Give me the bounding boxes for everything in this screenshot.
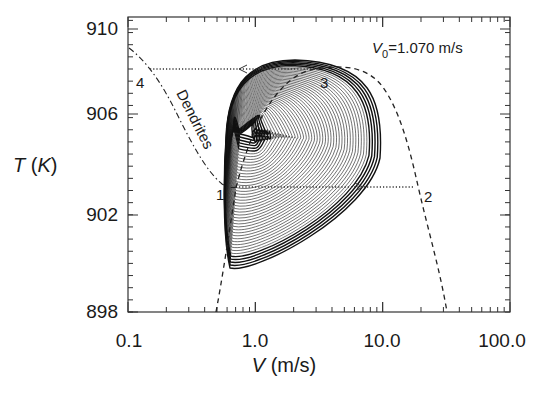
phase-plot: 898 902 906 910 0.1 1.0 10.0 100.0 V (m/… xyxy=(0,0,548,396)
y-tick-label: 898 xyxy=(86,301,118,322)
dendrites-label: Dendrites xyxy=(173,87,217,152)
x-tick-label: 100.0 xyxy=(478,330,526,351)
point-label-4: 4 xyxy=(136,74,144,91)
point-label-3: 3 xyxy=(320,74,328,91)
y-tick-label: 906 xyxy=(86,103,118,124)
y-axis-title: T (K) xyxy=(13,154,57,176)
x-tick-label: 0.1 xyxy=(116,330,142,351)
point-label-2: 2 xyxy=(424,188,432,205)
x-axis xyxy=(128,17,510,312)
initial-velocity-annotation: V0=1.070 m/s xyxy=(372,39,463,60)
x-tick-label: 1.0 xyxy=(242,330,268,351)
point-label-1: 1 xyxy=(216,186,224,203)
y-axis xyxy=(128,29,510,312)
x-tick-label: 10.0 xyxy=(364,330,401,351)
y-tick-label: 902 xyxy=(86,204,118,225)
plot-frame xyxy=(128,17,510,312)
x-axis-title: V (m/s) xyxy=(252,354,316,376)
y-tick-label: 910 xyxy=(86,18,118,39)
trajectory-curves xyxy=(224,60,380,268)
